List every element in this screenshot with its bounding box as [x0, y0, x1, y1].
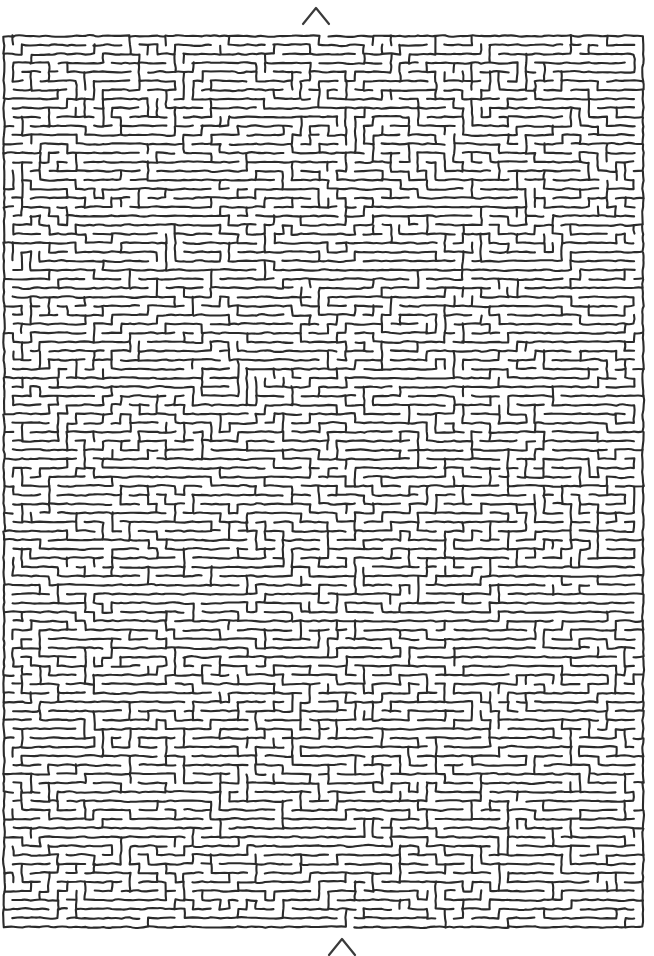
maze-corridor-wall	[211, 666, 220, 675]
maze-corridor-wall	[455, 432, 464, 433]
maze-corridor-wall	[192, 558, 283, 568]
maze-corridor-wall	[309, 280, 310, 288]
maze-corridor-wall	[165, 738, 247, 766]
maze-corridor-wall	[509, 917, 535, 918]
maze-corridor-wall	[67, 397, 131, 433]
maze-corridor-wall	[509, 352, 536, 361]
maze-corridor-wall	[625, 845, 634, 846]
maze-corridor-wall	[219, 180, 228, 189]
maze-corridor-wall	[194, 838, 239, 847]
maze-corridor-wall	[292, 72, 301, 73]
maze-corridor-wall	[409, 45, 490, 72]
maze-corridor-wall	[220, 117, 230, 127]
maze-corridor-wall	[229, 783, 247, 802]
maze-corridor-wall	[589, 45, 598, 46]
maze-corridor-wall	[32, 71, 41, 72]
maze-corridor-wall	[616, 172, 644, 199]
maze-corridor-wall	[561, 369, 643, 397]
maze-corridor-wall	[409, 683, 419, 684]
maze-corridor-wall	[166, 521, 212, 531]
exit-chevron-icon	[329, 939, 355, 955]
maze-corridor-wall	[229, 819, 283, 829]
maze-corridor-wall	[238, 243, 256, 244]
maze-corridor-wall	[454, 647, 535, 649]
maze-corridor-wall	[130, 773, 176, 783]
maze-corridor-wall	[382, 738, 418, 748]
maze-corridor-wall	[598, 134, 634, 135]
maze-corridor-wall	[256, 577, 301, 586]
maze-corridor-wall	[606, 145, 634, 154]
maze-corridor-wall	[382, 45, 401, 55]
maze-corridor-wall	[41, 504, 50, 513]
maze-corridor-wall	[229, 540, 247, 541]
maze-corridor-wall	[301, 279, 374, 306]
maze-corridor-wall	[356, 899, 428, 918]
maze-corridor-wall	[624, 647, 634, 666]
maze-corridor-wall	[373, 890, 427, 900]
maze-corridor-wall	[354, 818, 382, 819]
maze-corridor-wall	[473, 35, 581, 45]
maze-corridor-wall	[139, 423, 166, 433]
maze-corridor-wall	[13, 216, 40, 234]
maze-corridor-wall	[409, 216, 418, 225]
maze-corridor-wall	[301, 685, 338, 712]
maze-corridor-wall	[211, 73, 311, 99]
maze-corridor-wall	[238, 208, 247, 217]
maze-corridor-wall	[94, 108, 104, 127]
maze-corridor-wall	[499, 890, 544, 891]
maze-corridor-wall	[94, 683, 194, 694]
maze-corridor-wall	[157, 512, 165, 513]
maze-corridor-wall	[625, 901, 643, 928]
maze-corridor-wall	[94, 576, 248, 622]
maze-corridor-wall	[49, 647, 103, 648]
maze-corridor-wall	[139, 62, 166, 63]
maze-corridor-wall	[527, 692, 544, 693]
maze-corridor-wall	[147, 46, 148, 55]
maze-corridor-wall	[130, 422, 157, 423]
maze-corridor-wall	[292, 548, 319, 550]
maze-corridor-wall	[49, 342, 130, 361]
maze-corridor-wall	[373, 37, 374, 45]
maze-corridor-wall	[409, 567, 418, 568]
maze-corridor-wall	[328, 791, 364, 793]
maze-corridor-wall	[256, 756, 311, 784]
maze-corridor-wall	[93, 44, 121, 46]
maze-corridor-wall	[464, 226, 509, 253]
maze-corridor-wall	[338, 531, 356, 540]
maze-corridor-wall	[237, 701, 264, 702]
maze-corridor-wall	[121, 127, 175, 136]
maze-corridor-wall	[329, 206, 337, 207]
maze-corridor-wall	[427, 828, 498, 855]
maze-corridor-wall	[543, 496, 562, 514]
maze-corridor-wall	[3, 774, 13, 793]
maze-corridor-wall	[535, 675, 616, 703]
maze-corridor-wall	[40, 684, 84, 694]
maze-corridor-wall	[13, 818, 40, 819]
maze-corridor-wall	[607, 35, 644, 81]
maze-corridor-wall	[355, 252, 436, 262]
maze-corridor-wall	[246, 368, 328, 369]
maze-corridor-wall	[67, 910, 76, 919]
maze-corridor-wall	[491, 791, 572, 792]
maze-corridor-wall	[76, 377, 103, 378]
maze-corridor-wall	[292, 81, 293, 89]
maze-corridor-wall	[616, 216, 634, 217]
maze-corridor-wall	[76, 917, 139, 919]
maze-corridor-wall	[31, 711, 85, 739]
maze-corridor-wall	[302, 99, 310, 100]
maze-corridor-wall	[85, 117, 94, 118]
maze-corridor-wall	[373, 116, 410, 126]
maze-corridor-wall	[122, 783, 167, 793]
maze-corridor-wall	[319, 585, 346, 586]
maze-corridor-wall	[507, 279, 518, 297]
maze-corridor-wall	[274, 694, 293, 712]
maze-corridor-wall	[40, 298, 50, 316]
maze-corridor-wall	[337, 647, 382, 648]
maze-figure	[0, 0, 654, 956]
maze-corridor-wall	[202, 89, 211, 90]
maze-corridor-wall	[174, 197, 238, 199]
maze-corridor-wall	[471, 81, 472, 90]
maze-corridor-wall	[166, 611, 184, 613]
maze-corridor-wall	[508, 540, 545, 549]
maze-corridor-wall	[437, 494, 455, 495]
